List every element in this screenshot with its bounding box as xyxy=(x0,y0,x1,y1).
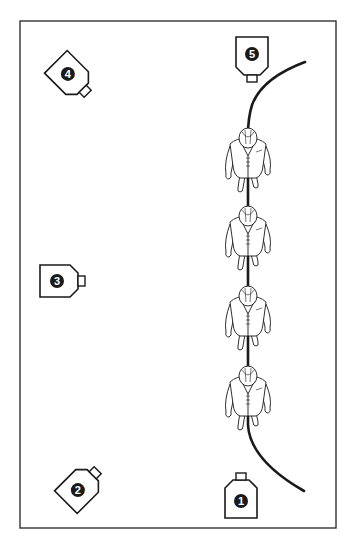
camera-2-icon: 2 xyxy=(55,459,109,513)
camera-placement-diagram: 5 4 3 2 1 xyxy=(0,0,356,546)
walking-path xyxy=(248,62,305,491)
camera-5-label: 5 xyxy=(249,48,255,60)
camera-2-label: 2 xyxy=(75,484,81,496)
camera-4-label: 4 xyxy=(65,68,72,80)
camera-4-icon: 4 xyxy=(45,51,99,105)
camera-1-icon: 1 xyxy=(225,473,257,518)
camera-3-icon: 3 xyxy=(40,265,85,297)
camera-5-icon: 5 xyxy=(236,37,268,82)
diagram-canvas: 5 4 3 2 1 xyxy=(0,0,356,546)
camera-3-label: 3 xyxy=(54,275,60,287)
camera-1-label: 1 xyxy=(238,495,244,507)
